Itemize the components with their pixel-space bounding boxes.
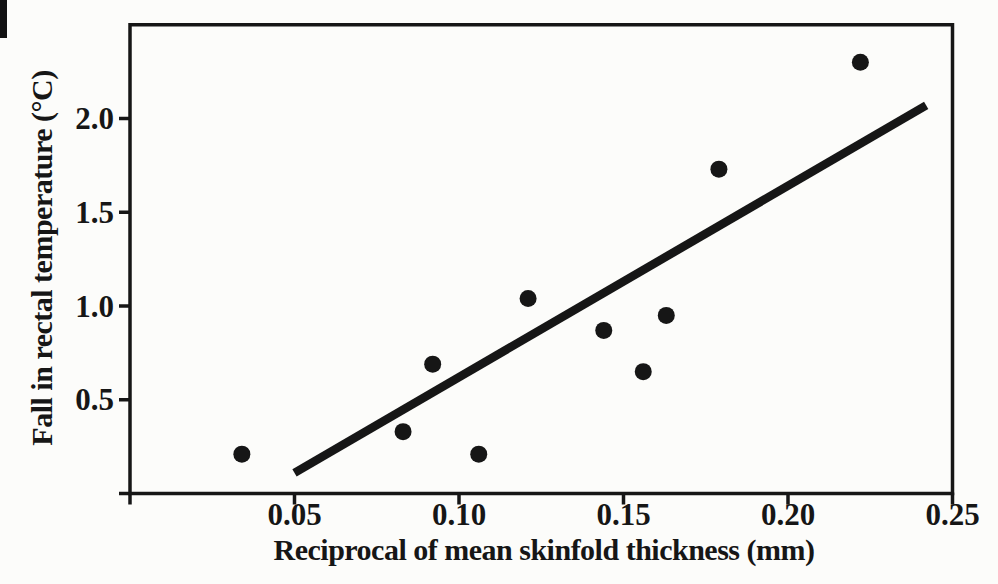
y-tick-label: 2.0 <box>75 101 114 136</box>
data-point <box>852 54 869 71</box>
y-axis-label: Fall in rectal temperature (°C) <box>25 70 59 445</box>
data-point <box>395 423 412 440</box>
y-tick-label: 1.5 <box>75 195 114 230</box>
data-point <box>710 161 727 178</box>
x-axis-ticks: 0.050.100.150.200.25 <box>130 493 980 533</box>
x-tick-label: 0.15 <box>596 497 650 532</box>
plot-border <box>130 25 953 494</box>
data-point <box>520 290 537 307</box>
data-point <box>658 307 675 324</box>
y-tick-label: 1.0 <box>75 289 114 324</box>
x-tick-label: 0.20 <box>761 497 815 532</box>
scan-edge-artifact <box>0 0 7 38</box>
data-point <box>424 356 441 373</box>
y-axis-ticks: 0.51.01.52.0 <box>75 101 131 494</box>
data-point <box>635 363 652 380</box>
data-point <box>470 446 487 463</box>
data-point <box>233 446 250 463</box>
y-tick-label: 0.5 <box>75 382 114 417</box>
x-tick-label: 0.10 <box>432 497 486 532</box>
data-points <box>233 54 869 463</box>
scatter-plot-figure: 0.050.100.150.200.25 0.51.01.52.0 Recipr… <box>0 0 998 584</box>
scatter-chart: 0.050.100.150.200.25 0.51.01.52.0 Recipr… <box>0 0 998 584</box>
data-point <box>595 322 612 339</box>
x-axis-label: Reciprocal of mean skinfold thickness (m… <box>274 533 815 567</box>
x-tick-label: 0.25 <box>925 497 979 532</box>
regression-line <box>295 105 927 473</box>
x-tick-label: 0.05 <box>267 497 321 532</box>
